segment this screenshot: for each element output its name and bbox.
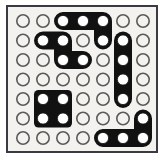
empty-hole-r4c4 <box>77 73 89 85</box>
pad-hole-r3c3 <box>57 54 68 65</box>
empty-hole-r1c7 <box>137 15 149 27</box>
pad-hole-r5c3 <box>57 93 68 104</box>
pad-hole-r7c6 <box>117 132 128 143</box>
empty-hole-r4c2 <box>37 73 49 85</box>
empty-hole-r4c5 <box>97 73 109 85</box>
pad-hole-r3c4 <box>77 54 88 65</box>
empty-hole-r3c1 <box>17 54 29 66</box>
perfboard-grid <box>0 0 165 160</box>
empty-hole-r5c1 <box>17 93 29 105</box>
empty-hole-r7c1 <box>17 132 29 144</box>
pad-hole-r7c7 <box>137 132 148 143</box>
empty-hole-r1c2 <box>37 15 49 27</box>
pad-hole-r1c5 <box>97 15 108 26</box>
pad-hole-r6c3 <box>57 113 68 124</box>
empty-hole-r7c4 <box>77 132 89 144</box>
empty-hole-r1c1 <box>17 15 29 27</box>
pad-hole-r6c7 <box>137 113 148 124</box>
empty-hole-r1c6 <box>117 15 129 27</box>
empty-hole-r2c7 <box>137 34 149 46</box>
empty-hole-r2c1 <box>17 34 29 46</box>
empty-hole-r4c1 <box>17 73 29 85</box>
empty-hole-r5c4 <box>77 93 89 105</box>
empty-hole-r7c2 <box>37 132 49 144</box>
pad-hole-r5c6 <box>117 93 128 104</box>
empty-hole-r6c1 <box>17 112 29 124</box>
pad-hole-r4c6 <box>117 74 128 85</box>
empty-hole-r6c5 <box>97 112 109 124</box>
pad-hole-r7c5 <box>97 132 108 143</box>
perfboard-screenshot: perfboard-trace-layout Monochrome 7x7 pe… <box>0 0 165 160</box>
pad-hole-r6c2 <box>37 113 48 124</box>
pad-hole-r5c2 <box>37 93 48 104</box>
empty-hole-r4c7 <box>137 73 149 85</box>
empty-hole-r7c3 <box>57 132 69 144</box>
pad-hole-r3c6 <box>117 54 128 65</box>
empty-hole-r4c3 <box>57 73 69 85</box>
empty-hole-r3c7 <box>137 54 149 66</box>
pad-hole-r2c3 <box>57 35 68 46</box>
empty-hole-r5c5 <box>97 93 109 105</box>
empty-hole-r6c4 <box>77 112 89 124</box>
empty-hole-r3c5 <box>97 54 109 66</box>
empty-hole-r2c4 <box>77 34 89 46</box>
pad-hole-r2c6 <box>117 35 128 46</box>
pad-hole-r1c4 <box>77 15 88 26</box>
empty-hole-r3c2 <box>37 54 49 66</box>
empty-hole-r5c7 <box>137 93 149 105</box>
pad-hole-r2c5 <box>97 35 108 46</box>
empty-hole-r6c6 <box>117 112 129 124</box>
pad-hole-r2c2 <box>37 35 48 46</box>
pad-hole-r1c3 <box>57 15 68 26</box>
